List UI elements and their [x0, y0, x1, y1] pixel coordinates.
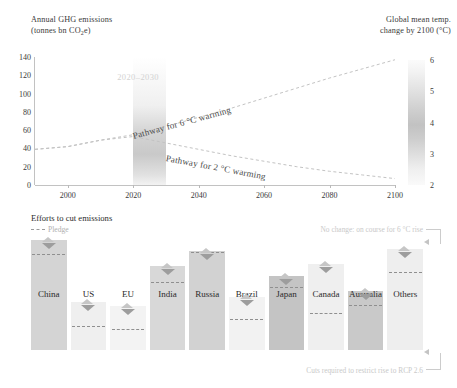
left-axis-title: Annual GHG emissions (tonnes bn CO2e) [31, 14, 112, 39]
band-label: 2020–2030 [117, 72, 159, 82]
right-axis-title: Global mean temp. change by 2100 (°C) [380, 14, 451, 36]
bar-group-others[interactable]: Others [387, 240, 423, 350]
triangle-up-icon [200, 248, 212, 253]
pledge-line-brazil [230, 319, 263, 320]
annotation-no-change: No change: on course for 6 °C rise [321, 225, 424, 234]
bar-group-india[interactable]: India [150, 240, 186, 350]
pathway-curve-6c [35, 60, 395, 150]
triangle-up-icon [359, 288, 371, 293]
x-tickmark-2080 [330, 185, 331, 188]
bar-india[interactable] [150, 266, 186, 350]
right-axis-title-line1: Global mean temp. [380, 14, 451, 25]
colorbar-tick-4: 4 [430, 118, 434, 127]
temperature-colorbar [408, 60, 425, 185]
x-tick-2000: 2000 [60, 191, 76, 200]
colorbar-tick-3: 3 [430, 149, 434, 158]
triangle-down-icon [121, 309, 135, 315]
bar-label-india: India [158, 289, 177, 299]
y-tick-100: 100 [19, 89, 31, 98]
triangle-down-icon [240, 300, 254, 306]
triangle-up-icon [319, 261, 331, 266]
x-tickmark-2060 [264, 185, 265, 188]
annotation-cuts-required: Cuts required to restrict rise to RCP 2.… [306, 366, 423, 375]
triangle-up-icon [398, 246, 410, 251]
bar-group-canada[interactable]: Canada [308, 240, 344, 350]
x-tickmark-2020 [133, 185, 134, 188]
annotation-bracket-bottom [426, 353, 441, 370]
range-marker-canada [319, 261, 333, 273]
y-tick-80: 80 [23, 107, 31, 116]
x-tickmark-2000 [68, 185, 69, 188]
x-tickmark-2100 [395, 185, 396, 188]
bar-group-china[interactable]: China [31, 240, 67, 350]
range-marker-russia [200, 248, 214, 260]
bar-group-japan[interactable]: Japan [269, 240, 305, 350]
bar-group-brazil[interactable]: Brazil [229, 240, 265, 350]
bar-others[interactable] [387, 249, 423, 350]
triangle-up-icon [121, 303, 133, 308]
bar-group-eu[interactable]: EU [110, 240, 146, 350]
bar-label-others: Others [393, 289, 417, 299]
range-marker-india [161, 263, 175, 275]
range-marker-australia [359, 288, 373, 300]
range-marker-brazil [240, 294, 254, 306]
bar-label-china: China [38, 289, 60, 299]
bar-label-russia: Russia [195, 289, 219, 299]
colorbar-tick-2: 2 [430, 181, 434, 190]
bar-group-us[interactable]: US [71, 240, 107, 350]
triangle-up-icon [42, 237, 54, 242]
x-tick-2040: 2040 [191, 191, 207, 200]
annotation-arrow-bottom-icon [424, 349, 429, 355]
y-tick-60: 60 [23, 126, 31, 135]
pledge-line-eu [112, 329, 145, 330]
colorbar-tick-6: 6 [430, 56, 434, 65]
country-bars: ChinaUSEUIndiaRussiaBrazilJapanCanadaAus… [31, 240, 423, 350]
right-axis-title-line2: change by 2100 (°C) [380, 25, 451, 36]
range-marker-others [398, 246, 412, 258]
pledge-line-china [32, 254, 65, 255]
pledge-line-us [72, 326, 105, 327]
colorbar-tick-5: 5 [430, 87, 434, 96]
triangle-down-icon [161, 269, 175, 275]
pledge-line-canada [310, 313, 343, 314]
pledge-dash-icon [31, 229, 45, 230]
triangle-up-icon [240, 294, 252, 299]
triangle-down-icon [81, 305, 95, 311]
triangle-down-icon [359, 294, 373, 300]
y-tick-0: 0 [27, 181, 31, 190]
pledge-line-australia [349, 305, 382, 306]
range-marker-eu [121, 303, 135, 315]
triangle-up-icon [161, 263, 173, 268]
triangle-up-icon [81, 299, 93, 304]
range-marker-us [81, 299, 95, 311]
x-tickmark-2040 [199, 185, 200, 188]
x-tick-2100: 2100 [387, 191, 403, 200]
bar-group-russia[interactable]: Russia [189, 240, 225, 350]
pledge-legend: Pledge [31, 225, 69, 234]
pledge-legend-label: Pledge [48, 225, 69, 234]
annotation-arrow-top-icon [424, 239, 429, 245]
triangle-down-icon [279, 279, 293, 285]
bar-canada[interactable] [308, 264, 344, 350]
range-marker-china [42, 237, 56, 249]
x-tick-2060: 2060 [256, 191, 272, 200]
x-axis-line [35, 185, 395, 186]
bar-russia[interactable] [189, 251, 225, 350]
left-axis-title-line2: (tonnes bn CO2e) [31, 25, 112, 39]
triangle-down-icon [319, 267, 333, 273]
y-tick-120: 120 [19, 71, 31, 80]
pledge-line-india [151, 282, 184, 283]
y-tick-40: 40 [23, 144, 31, 153]
triangle-up-icon [279, 273, 291, 278]
efforts-to-cut-emissions-chart: Efforts to cut emissions Pledge ChinaUSE… [0, 205, 457, 388]
triangle-down-icon [200, 254, 214, 260]
range-marker-japan [279, 273, 293, 285]
bar-label-japan: Japan [276, 289, 297, 299]
y-tick-20: 20 [23, 162, 31, 171]
bar-group-australia[interactable]: Australia [348, 240, 384, 350]
plot-area: 020406080100120140 200020202040206020802… [35, 57, 395, 185]
bar-label-eu: EU [122, 289, 134, 299]
x-tick-2080: 2080 [322, 191, 338, 200]
left-axis-title-line1: Annual GHG emissions [31, 14, 112, 25]
triangle-down-icon [398, 252, 412, 258]
